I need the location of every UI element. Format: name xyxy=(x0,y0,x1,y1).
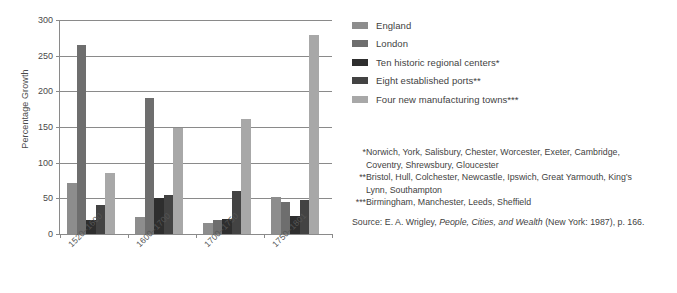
footnote-3: ***Birmingham, Manchester, Leeds, Sheffi… xyxy=(352,196,674,209)
source-prefix: Source: E. A. Wrigley, xyxy=(352,217,439,227)
footnote-1-marker: * xyxy=(352,146,366,159)
y-axis-title: Percentage Growth xyxy=(20,39,30,179)
y-tick-label-150: 150 xyxy=(38,122,53,132)
bar-1750-1801-series-5 xyxy=(309,35,319,234)
x-tick-2 xyxy=(128,234,129,238)
footnote-1-text: Norwich, York, Salisbury, Chester, Worce… xyxy=(366,147,620,157)
legend-item-1[interactable]: England xyxy=(352,16,672,35)
footnote-1: *Norwich, York, Salisbury, Chester, Worc… xyxy=(352,146,674,159)
legend-label-5: Four new manufacturing towns*** xyxy=(376,94,519,105)
chart-legend: EnglandLondonTen historic regional cente… xyxy=(352,16,672,109)
footnote-3-text: Birmingham, Manchester, Leeds, Sheffield xyxy=(366,197,531,207)
source-title: People, Cities, and Wealth xyxy=(439,217,543,227)
source-citation: Source: E. A. Wrigley, People, Cities, a… xyxy=(352,216,674,229)
x-tick-1 xyxy=(60,234,61,238)
footnotes-block: *Norwich, York, Salisbury, Chester, Worc… xyxy=(352,146,674,229)
y-tick-label-0: 0 xyxy=(48,229,53,239)
legend-label-2: London xyxy=(376,38,408,49)
bar-1600-1700-series-5 xyxy=(173,128,183,234)
footnote-3-marker: *** xyxy=(352,196,366,209)
source-suffix: (New York: 1987), p. 166. xyxy=(543,217,645,227)
figure-bar-chart-urban-growth: Percentage Growth 050100150200250300 152… xyxy=(0,0,677,293)
legend-item-4[interactable]: Eight established ports** xyxy=(352,72,672,91)
x-tick-3 xyxy=(196,234,197,238)
bars-group xyxy=(60,20,332,234)
bar-1520-1600-series-2 xyxy=(77,45,87,234)
x-tick-end xyxy=(332,234,333,238)
bar-1600-1700-series-2 xyxy=(145,98,155,234)
y-tick-label-100: 100 xyxy=(38,158,53,168)
bar-1520-1600-series-1 xyxy=(67,183,77,234)
legend-swatch-icon-3 xyxy=(352,59,368,66)
bar-1520-1600-series-5 xyxy=(105,173,115,234)
footnote-2-continuation: Lynn, Southampton xyxy=(352,184,674,197)
legend-label-1: England xyxy=(376,20,411,31)
legend-item-2[interactable]: London xyxy=(352,35,672,54)
bar-1750-1801-series-1 xyxy=(271,197,281,234)
footnote-1-continuation: Coventry, Shrewsbury, Gloucester xyxy=(352,159,674,172)
y-tick-label-300: 300 xyxy=(38,15,53,25)
x-tick-4 xyxy=(264,234,265,238)
legend-label-3: Ten historic regional centers* xyxy=(376,57,499,68)
legend-label-4: Eight established ports** xyxy=(376,75,481,86)
y-tick-label-200: 200 xyxy=(38,86,53,96)
footnote-2: **Bristol, Hull, Colchester, Newcastle, … xyxy=(352,171,674,184)
legend-swatch-icon-4 xyxy=(352,77,368,84)
chart-plot-area: Percentage Growth 050100150200250300 152… xyxy=(0,0,345,293)
footnote-2-text: Bristol, Hull, Colchester, Newcastle, Ip… xyxy=(366,172,632,182)
plot-box: 050100150200250300 1520–16001600–1700170… xyxy=(60,20,332,234)
legend-item-3[interactable]: Ten historic regional centers* xyxy=(352,53,672,72)
footnote-2-marker: ** xyxy=(352,171,366,184)
bar-1700-1750-series-5 xyxy=(241,119,251,234)
y-tick-label-250: 250 xyxy=(38,51,53,61)
legend-item-5[interactable]: Four new manufacturing towns*** xyxy=(352,90,672,109)
y-tick-label-50: 50 xyxy=(43,193,53,203)
legend-swatch-icon-2 xyxy=(352,40,368,47)
legend-swatch-icon-1 xyxy=(352,22,368,29)
legend-swatch-icon-5 xyxy=(352,96,368,103)
